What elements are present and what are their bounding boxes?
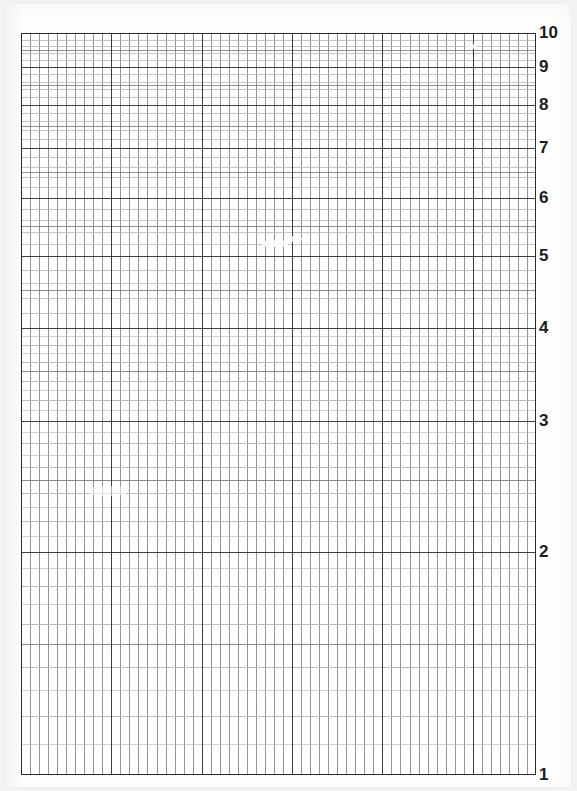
graph-paper-page: 10987654321 [0, 0, 577, 791]
log-grid-svg [21, 33, 536, 775]
log-grid [21, 33, 536, 775]
